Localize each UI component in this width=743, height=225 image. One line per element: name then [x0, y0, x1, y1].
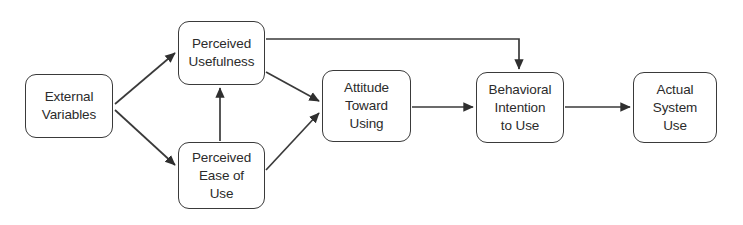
node-behavioral-intention-to-use[interactable]: Behavioral Intention to Use — [476, 72, 564, 143]
tam-diagram: External Variables Perceived Usefulness … — [0, 0, 743, 225]
node-external-variables[interactable]: External Variables — [25, 74, 113, 138]
edge-peu-to-atu — [266, 113, 319, 170]
node-actual-system-use[interactable]: Actual System Use — [633, 72, 717, 143]
edge-pu-to-biu — [266, 39, 519, 69]
node-label-perceived-ease-of-use: Perceived Ease of Use — [190, 149, 253, 203]
node-label-external-variables: External Variables — [40, 88, 98, 124]
node-perceived-usefulness[interactable]: Perceived Usefulness — [178, 21, 265, 85]
node-perceived-ease-of-use[interactable]: Perceived Ease of Use — [178, 142, 265, 209]
node-attitude-toward-using[interactable]: Attitude Toward Using — [322, 70, 411, 142]
edge-pu-to-atu — [266, 72, 319, 101]
edge-ev-to-peu — [115, 110, 175, 165]
edge-ev-to-pu — [115, 53, 175, 104]
node-label-attitude-toward-using: Attitude Toward Using — [342, 79, 391, 133]
node-label-actual-system-use: Actual System Use — [651, 81, 699, 135]
node-label-perceived-usefulness: Perceived Usefulness — [187, 35, 257, 71]
node-label-behavioral-intention-to-use: Behavioral Intention to Use — [487, 81, 554, 135]
